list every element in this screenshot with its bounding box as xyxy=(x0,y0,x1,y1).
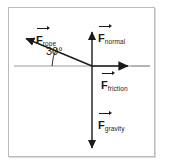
label-force-rope: Frope xyxy=(36,26,56,47)
vector-arrow-accent-icon xyxy=(99,24,112,29)
force-symbol-friction: F xyxy=(101,79,108,91)
force-symbol-gravity: F xyxy=(98,119,105,131)
vector-arrow-accent-icon xyxy=(102,71,115,76)
vector-arrow-accent-icon xyxy=(37,26,50,31)
vector-graphics-layer xyxy=(0,0,169,168)
diagram-canvas: 30° Frope Fnormal Ffriction Fgravity xyxy=(0,0,169,168)
force-subscript-gravity: gravity xyxy=(105,125,125,132)
force-subscript-rope: rope xyxy=(43,40,56,47)
vector-arrow-accent-icon xyxy=(99,111,112,116)
label-force-normal: Fnormal xyxy=(98,24,125,45)
label-force-friction: Ffriction xyxy=(101,71,128,92)
force-symbol-normal: F xyxy=(98,32,105,44)
label-force-gravity: Fgravity xyxy=(98,111,125,132)
force-subscript-normal: normal xyxy=(105,38,125,45)
force-symbol-rope: F xyxy=(36,34,43,46)
force-subscript-friction: friction xyxy=(108,85,128,92)
